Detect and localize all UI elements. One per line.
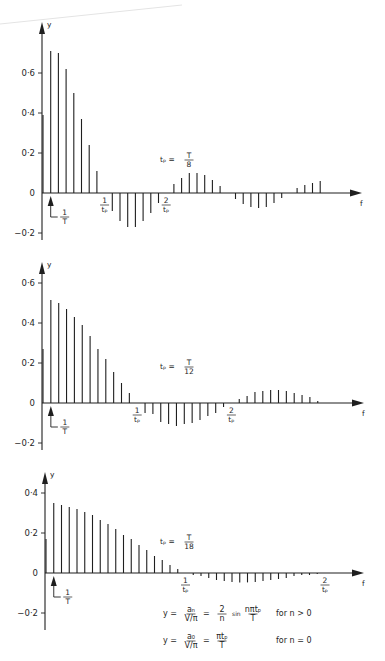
svg-text:tₚ: tₚ [134, 415, 140, 424]
svg-text:tₚ: tₚ [322, 585, 328, 594]
svg-text:1: 1 [62, 418, 67, 427]
svg-text:V/π: V/π [185, 614, 198, 623]
svg-text:T: T [250, 614, 256, 623]
y-tick-label: 0 [30, 398, 35, 408]
pulse-width-annotation: tₚ =T18 [160, 533, 194, 551]
y-tick-label: 0·2 [21, 358, 35, 368]
svg-text:tₚ: tₚ [102, 205, 108, 214]
fundamental-marker: 1T [51, 576, 73, 606]
paper-crease [0, 5, 182, 24]
svg-text:y =: y = [163, 609, 177, 618]
pulse-width-fraction: T8 [185, 151, 194, 169]
y-axis-arrow-icon [39, 262, 45, 274]
y-tick-label: −0·2 [14, 438, 35, 448]
harmonic-marker-label: 1tₚ [100, 196, 109, 214]
y-tick-label: 0 [30, 188, 35, 198]
harmonic-marker-label: 1tₚ [181, 576, 190, 594]
fundamental-marker: 1T [48, 196, 69, 226]
svg-text:T: T [186, 533, 192, 542]
arrow-up-icon [48, 196, 54, 206]
normalized-amplitude-fraction: aₙV/π [185, 605, 198, 623]
y-tick-label: 0·2 [21, 148, 35, 158]
line-spectra-chart: yf0·60·40·20−0·21T1tₚ2tₚtₚ =T8yf0·60·40·… [0, 0, 385, 661]
y-tick-label: 0·6 [21, 68, 35, 78]
y-tick-label: 0·6 [21, 278, 35, 288]
svg-text:12: 12 [184, 367, 194, 376]
x-axis-arrow-icon [352, 400, 364, 407]
svg-text:tₚ =: tₚ = [160, 537, 175, 546]
fundamental-label: 1T [60, 418, 69, 436]
y-axis-label: y [47, 20, 52, 29]
x-axis-arrow-icon [352, 570, 364, 577]
x-axis-label: f [362, 579, 365, 588]
y-tick-label: 0 [33, 568, 38, 578]
arrow-up-icon [51, 576, 57, 586]
svg-text:2: 2 [229, 406, 234, 415]
svg-text:for n > 0: for n > 0 [276, 609, 312, 618]
pulse-width-annotation: tₚ =T8 [160, 151, 194, 169]
svg-text:sin: sin [232, 610, 241, 617]
spectrum-figure: yf0·60·40·20−0·21T1tₚ2tₚtₚ =T8yf0·60·40·… [0, 0, 385, 661]
normalized-amplitude-fraction: a₀V/π [185, 632, 198, 650]
harmonic-marker-label: 1tₚ [133, 406, 142, 424]
y-axis-arrow-icon [42, 472, 48, 484]
harmonic-marker-label: 2tₚ [321, 576, 330, 594]
svg-text:T: T [62, 427, 68, 436]
formula-n-positive: y =aₙV/π=2nsinnπtₚTfor n > 0 [163, 605, 312, 623]
svg-text:T: T [64, 597, 70, 606]
svg-text:tₚ =: tₚ = [160, 362, 175, 371]
y-tick-label: 0·2 [24, 528, 38, 538]
y-axis-label: y [47, 260, 52, 269]
fundamental-label: 1T [63, 588, 72, 606]
formula-n-zero: y =a₀V/π=πtₚTfor n = 0 [163, 632, 312, 650]
y-tick-label: −0·2 [17, 608, 38, 618]
fundamental-marker: 1T [48, 406, 70, 436]
svg-text:aₙ: aₙ [187, 605, 195, 614]
svg-text:2: 2 [164, 196, 169, 205]
y-tick-label: 0·4 [24, 488, 38, 498]
svg-text:a₀: a₀ [187, 632, 195, 641]
svg-text:V/π: V/π [185, 641, 198, 650]
svg-text:T: T [219, 641, 225, 650]
svg-text:for n = 0: for n = 0 [276, 636, 312, 645]
svg-text:nπtₚ: nπtₚ [245, 605, 261, 614]
formula-block: y =aₙV/π=2nsinnπtₚTfor n > 0y =a₀V/π=πtₚ… [163, 605, 312, 650]
pulse-width-annotation: tₚ =T12 [160, 358, 194, 376]
fundamental-label: 1T [60, 208, 69, 226]
y-tick-label: −0·2 [14, 228, 35, 238]
spectrum-panel-2: yf0·60·40·20−0·21T1tₚ2tₚtₚ =T12 [14, 260, 365, 450]
svg-text:T: T [61, 217, 67, 226]
pulse-width-fraction: T12 [184, 358, 194, 376]
coefficient-fraction: πtₚT [216, 632, 227, 650]
harmonic-marker-label: 2tₚ [162, 196, 171, 214]
svg-text:tₚ: tₚ [182, 585, 188, 594]
spectrum-panel-1: yf0·60·40·20−0·21T1tₚ2tₚtₚ =T8 [14, 20, 363, 240]
svg-text:n: n [219, 614, 224, 623]
svg-text:8: 8 [187, 160, 192, 169]
svg-text:πtₚ: πtₚ [216, 632, 227, 641]
arrow-up-icon [48, 406, 54, 416]
svg-text:2: 2 [219, 605, 224, 614]
svg-text:1: 1 [62, 208, 67, 217]
svg-text:y =: y = [163, 636, 177, 645]
y-axis-arrow-icon [39, 22, 45, 34]
pulse-width-fraction: T18 [184, 533, 194, 551]
svg-text:=: = [203, 636, 210, 645]
svg-text:T: T [186, 151, 192, 160]
coefficient-fraction: 2n [218, 605, 227, 623]
y-tick-label: 0·4 [21, 108, 35, 118]
svg-text:1: 1 [183, 576, 188, 585]
y-axis-label: y [50, 470, 55, 479]
svg-text:=: = [203, 609, 210, 618]
svg-text:1: 1 [65, 588, 70, 597]
sine-argument-fraction: nπtₚT [245, 605, 261, 623]
svg-text:1: 1 [135, 406, 140, 415]
x-axis-label: f [360, 199, 363, 208]
harmonic-marker-label: 2tₚ [227, 406, 236, 424]
svg-text:2: 2 [323, 576, 328, 585]
svg-text:1: 1 [102, 196, 107, 205]
svg-text:T: T [186, 358, 192, 367]
svg-text:tₚ =: tₚ = [160, 155, 175, 164]
svg-text:tₚ: tₚ [228, 415, 234, 424]
x-axis-label: f [362, 409, 365, 418]
